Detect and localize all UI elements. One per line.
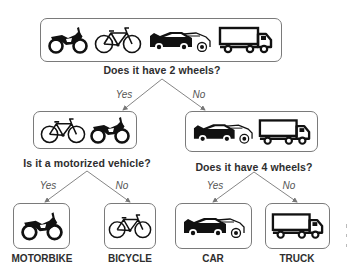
motorbike-icon [48,26,88,54]
leaf-truck [265,203,330,249]
left-no-label: No [116,180,129,191]
left-question: Is it a motorized vehicle? [23,157,150,169]
root-yes-label: Yes [116,89,133,100]
car-icon [148,28,212,52]
bicycle-icon [40,117,86,144]
motorbike-icon [90,116,130,144]
left-node [33,111,137,149]
bicycle-icon [94,26,142,54]
root-no-label: No [193,89,206,100]
cropped-edge-mark [346,224,347,228]
cropped-edge-mark [346,234,347,237]
root-node [40,18,282,62]
root-question: Does it have 2 wheels? [103,64,220,76]
leaf-bicycle [104,203,156,249]
left-yes-label: Yes [40,180,57,191]
cropped-edge-mark [346,244,347,247]
right-node [185,111,318,152]
car-icon [182,214,246,238]
decision-tree-diagram: Does it have 2 wheels? Yes No Is it a mo… [0,0,348,274]
truck-icon [218,26,274,54]
leaf-label-motorbike: MOTORBIKE [12,253,73,264]
leaf-label-truck: TRUCK [280,253,315,264]
right-yes-label: Yes [207,180,224,191]
motorbike-icon [21,211,63,241]
right-no-label: No [283,180,296,191]
leaf-car [175,203,252,249]
car-icon [192,120,254,144]
leaf-label-car: CAR [202,253,224,264]
bicycle-icon [108,212,152,240]
leaf-label-bicycle: BICYCLE [108,253,152,264]
truck-icon [258,118,312,146]
right-question: Does it have 4 wheels? [195,161,312,173]
truck-icon [271,212,325,240]
leaf-motorbike [13,203,70,249]
